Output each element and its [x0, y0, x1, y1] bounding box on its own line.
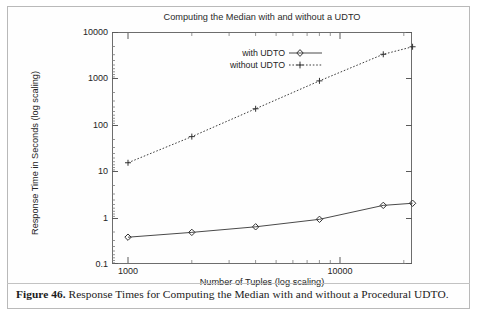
- legend-swatch-without-udto: [289, 60, 322, 70]
- data-point: [410, 44, 416, 50]
- data-point: [125, 160, 131, 166]
- legend-item-with-udto[interactable]: with UDTO: [196, 47, 322, 59]
- figure-caption: Figure 46. Response Times for Computing …: [16, 288, 468, 300]
- caption-divider: [7, 283, 470, 284]
- figure-page: Computing the Median with and without a …: [0, 0, 478, 322]
- legend-swatch-with-udto: [289, 48, 322, 58]
- data-point: [380, 51, 386, 57]
- data-point: [253, 106, 259, 112]
- data-point: [189, 134, 195, 140]
- legend-item-without-udto[interactable]: without UDTO: [196, 59, 322, 71]
- figure-caption-text: Response Times for Computing the Median …: [69, 288, 449, 300]
- data-point: [316, 78, 322, 84]
- chart-plot-area: Computing the Median with and without a …: [0, 0, 478, 285]
- series-line-with-udto: [128, 203, 413, 237]
- legend-label-with-udto: with UDTO: [242, 48, 285, 58]
- chart-canvas: [0, 0, 478, 285]
- series-with-udto: [125, 200, 416, 240]
- figure-number: Figure 46.: [16, 288, 66, 300]
- legend-label-without-udto: without UDTO: [230, 60, 285, 70]
- chart-legend: with UDTO without UDTO: [196, 47, 322, 73]
